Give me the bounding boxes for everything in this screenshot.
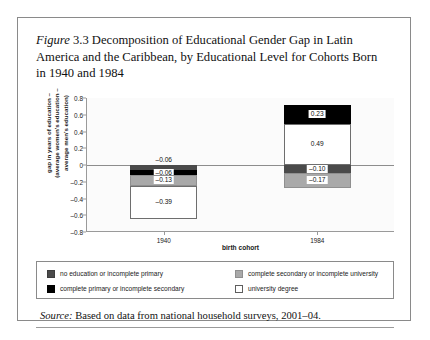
x-tick-mark xyxy=(317,232,318,235)
figure-label: Figure xyxy=(36,33,70,47)
legend-item-white: university degree xyxy=(235,285,298,293)
bar-value-label: –0.13 xyxy=(153,176,174,184)
source-text: Based on data from national household su… xyxy=(73,310,321,321)
legend-row: complete primary or incomplete secondary… xyxy=(47,282,391,295)
legend-label: no education or incomplete primary xyxy=(60,270,163,277)
plot-area: –0.06–0.06–0.13–0.390.490.23–0.10–0.17 xyxy=(87,98,394,232)
chart: gap in years of education – (average wom… xyxy=(36,98,394,253)
x-axis-label: birth cohort xyxy=(87,244,394,251)
y-axis-label-line1: gap in years of education – xyxy=(45,75,53,191)
legend-swatch-icon xyxy=(235,285,243,293)
source-note: Source: Based on data from national hous… xyxy=(40,310,392,321)
figure-caption: Figure 3.3 Decomposition of Educational … xyxy=(36,32,388,82)
figure-frame: Figure 3.3 Decomposition of Educational … xyxy=(17,17,411,321)
legend-item-lgray: complete secondary or incomplete univers… xyxy=(235,270,378,278)
legend-label: university degree xyxy=(248,285,298,292)
legend-row: no education or incomplete primary compl… xyxy=(47,267,391,280)
legend-label: complete secondary or incomplete univers… xyxy=(248,270,378,277)
figure-number: 3.3 xyxy=(73,33,89,47)
legend-swatch-icon xyxy=(47,285,55,293)
y-axis-ticks: 0.80.60.40.20–0.2–0.4–0.6–0.8 xyxy=(60,98,86,232)
x-tick-label: 1984 xyxy=(310,237,324,244)
legend-swatch-icon xyxy=(47,270,55,278)
source-divider xyxy=(36,327,394,328)
legend-label: complete primary or incomplete secondary xyxy=(60,285,184,292)
bar-value-label: –0.17 xyxy=(307,176,328,184)
legend: no education or incomplete primary compl… xyxy=(36,261,394,299)
legend-item-dgray: no education or incomplete primary xyxy=(47,270,163,278)
source-label: Source: xyxy=(40,310,73,321)
x-tick-label: 1940 xyxy=(157,237,171,244)
legend-item-black: complete primary or incomplete secondary xyxy=(47,285,184,293)
bar-1984[interactable]: 0.490.23–0.10–0.17 xyxy=(284,98,351,232)
bar-value-label: 0.23 xyxy=(309,110,326,118)
bar-value-label: –0.39 xyxy=(153,198,174,206)
bar-1940[interactable]: –0.06–0.06–0.13–0.39 xyxy=(130,98,197,232)
x-tick-mark xyxy=(164,232,165,235)
bar-value-label: 0.49 xyxy=(309,140,326,148)
bar-value-label: –0.10 xyxy=(307,165,328,173)
bar-value-label: –0.06 xyxy=(153,156,174,164)
legend-swatch-icon xyxy=(235,270,243,278)
